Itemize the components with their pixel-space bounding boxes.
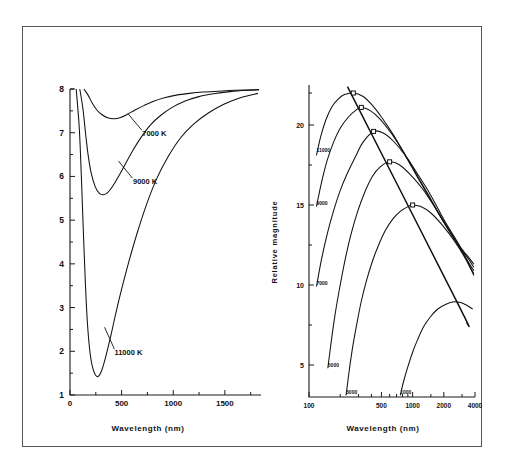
figure-border: 050010001500 12345678 11000 K9000 K7000 …	[22, 26, 482, 447]
right-curve-group	[316, 93, 473, 395]
right-y-tick-label: 5	[300, 362, 304, 369]
right-x-tick-label: 1000	[405, 402, 420, 409]
left-y-tick-label: 2	[59, 346, 64, 356]
left-curve-9000k	[80, 89, 259, 195]
left-x-tick-label: 0	[68, 399, 73, 408]
right-y-tick-label: 10	[296, 282, 304, 289]
right-curve-label-5000k: 5000	[328, 362, 339, 368]
left-y-tick-label: 4	[59, 259, 64, 269]
peak-marker-7000k	[372, 129, 376, 133]
left-y-tick-label: 8	[59, 84, 64, 94]
left-y-tick-label: 1	[59, 390, 64, 400]
left-curve-label-11000k: 11000 K	[114, 348, 143, 357]
right-y-tick-labels: 5101520	[296, 122, 304, 369]
left-chart-svg: 050010001500 12345678 11000 K9000 K7000 …	[23, 27, 268, 448]
left-x-axis-title: Wavelength (nm)	[111, 424, 184, 433]
right-curve-7000k	[316, 131, 473, 287]
left-chart-panel: 050010001500 12345678 11000 K9000 K7000 …	[23, 27, 268, 446]
left-curve-label-7000k: 7000 K	[142, 129, 167, 138]
left-curve-label-9000k: 9000 K	[133, 177, 158, 186]
peak-marker-9000k	[359, 105, 363, 109]
left-y-tick-label: 5	[59, 215, 64, 225]
right-y-tick-label: 20	[296, 122, 304, 129]
left-curve-11000k	[76, 89, 258, 377]
left-x-tick-label: 1000	[164, 399, 182, 408]
left-y-tick-labels: 12345678	[59, 84, 64, 400]
left-y-tick-label: 3	[59, 303, 64, 313]
left-leader-11000k	[105, 327, 115, 349]
left-x-tick-label: 500	[115, 399, 129, 408]
right-x-axis-title: Wavelength (nm)	[346, 424, 419, 433]
right-x-tick-label: 2000	[437, 402, 452, 409]
peak-marker-5000k	[388, 160, 392, 164]
right-curve-11000k	[316, 93, 473, 264]
left-curve-group	[76, 89, 259, 377]
left-y-tick-label: 6	[59, 171, 64, 181]
right-curve-label-1000k: 1000	[400, 389, 411, 395]
right-curve-1000k	[400, 302, 472, 396]
right-y-tick-label: 15	[296, 202, 304, 209]
right-curve-label-7000k: 7000	[316, 280, 327, 286]
right-y-axis-title: Relative magnitude	[270, 200, 279, 283]
right-x-tick-label: 100	[304, 402, 315, 409]
left-x-tick-labels: 050010001500	[68, 399, 235, 408]
left-leader-7000k	[128, 113, 142, 130]
left-y-tick-label: 7	[59, 128, 64, 138]
right-x-tick-label: 500	[376, 402, 387, 409]
left-leader-lines	[105, 113, 142, 349]
peak-marker-3000k	[411, 203, 415, 207]
right-x-tick-labels: 100500100020004000	[304, 402, 483, 409]
right-curve-label-3000k: 3000	[346, 389, 357, 395]
right-chart-svg: 100500100020004000 5101520 1100090007000…	[263, 27, 483, 448]
right-tick-marks	[309, 93, 475, 397]
right-curve-label-11000k: 11000	[316, 147, 330, 153]
wien-displacement-line	[347, 87, 469, 327]
left-curve-7000k	[84, 89, 259, 119]
peak-markers	[351, 91, 414, 207]
right-curve-label-9000k: 9000	[316, 200, 327, 206]
right-x-tick-label: 4000	[468, 402, 483, 409]
right-curve-3000k	[346, 205, 474, 395]
left-x-tick-label: 1500	[216, 399, 234, 408]
right-chart-panel: 100500100020004000 5101520 1100090007000…	[263, 27, 483, 446]
left-curve-labels: 11000 K9000 K7000 K	[114, 129, 167, 357]
peak-marker-11000k	[351, 91, 355, 95]
right-curve-9000k	[316, 107, 473, 267]
